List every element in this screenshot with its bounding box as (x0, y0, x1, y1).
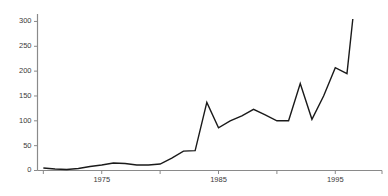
data-series-line (43, 19, 352, 170)
y-tick-label: 150 (19, 91, 32, 100)
x-axis-tick-labels: 197519851995 (93, 175, 343, 184)
y-tick-label: 100 (19, 116, 32, 125)
chart-figure: 050100150200250300 197519851995 (0, 0, 388, 196)
y-tick-label: 250 (19, 41, 32, 50)
y-tick-label: 50 (23, 141, 31, 150)
y-tick-label: 300 (19, 16, 32, 25)
x-tick-label: 1975 (93, 175, 110, 184)
y-tick-label: 200 (19, 66, 32, 75)
y-axis-tick-labels: 050100150200250300 (19, 16, 32, 174)
x-tick-label: 1995 (327, 175, 344, 184)
x-tick-label: 1985 (210, 175, 227, 184)
line-chart: 050100150200250300 197519851995 (0, 0, 388, 196)
y-tick-label: 0 (27, 165, 31, 174)
